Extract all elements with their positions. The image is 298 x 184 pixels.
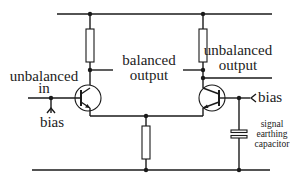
right-bias-label: bias — [258, 89, 282, 105]
right-bias-arrow-icon — [251, 94, 256, 102]
junction-dot — [144, 168, 148, 172]
capacitor-label-2: earthing — [256, 129, 287, 139]
left-bias-label: bias — [40, 114, 64, 130]
transistor-q2 — [199, 85, 225, 116]
transistor-q1 — [75, 85, 101, 116]
junction-dot — [237, 168, 241, 172]
balanced-output-label: balanced — [122, 52, 176, 68]
unbalanced-in-label-2: in — [38, 80, 50, 96]
capacitor-c1 — [231, 130, 247, 138]
unbalanced-output-label-2: output — [219, 57, 258, 73]
resistor-r3-tail — [142, 126, 150, 159]
capacitor-label: signal — [261, 119, 284, 129]
long-tailed-pair-circuit: unbalanced in bias balanced output unbal… — [0, 0, 298, 184]
capacitor-label-3: capacitor — [255, 139, 291, 149]
balanced-output-label-2: output — [130, 67, 169, 83]
resistor-r1 — [86, 29, 94, 62]
unbalanced-output-label: unbalanced — [204, 42, 273, 58]
